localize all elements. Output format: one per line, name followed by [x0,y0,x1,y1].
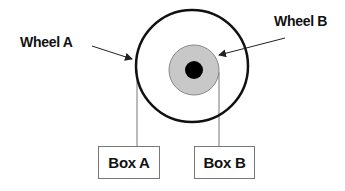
box-b: Box B [194,146,255,179]
hub-dot [185,61,203,79]
arrow-wheel-a [92,46,132,59]
arrow-wheel-b [219,38,285,55]
wheel-b-label: Wheel B [274,13,327,29]
wheel-a-label: Wheel A [20,34,73,50]
box-a: Box A [98,146,160,179]
